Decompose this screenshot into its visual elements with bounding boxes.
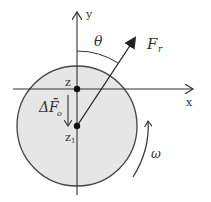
x-axis-label: x <box>186 96 193 109</box>
theta-label: θ <box>94 33 103 49</box>
point-z1-subscript: 1 <box>71 137 75 145</box>
point-z-label: z <box>65 76 71 89</box>
displacement-subscript: o <box>57 109 62 118</box>
point-z <box>74 86 80 92</box>
disk-force-diagram: x y θ F r ΔF̄ o z z 1 ω <box>0 0 211 202</box>
force-label: F <box>146 35 158 53</box>
point-z1 <box>74 123 80 129</box>
force-subscript: r <box>158 44 163 54</box>
theta-arc <box>77 51 118 63</box>
omega-label: ω <box>151 147 161 161</box>
y-axis-label: y <box>85 8 93 21</box>
